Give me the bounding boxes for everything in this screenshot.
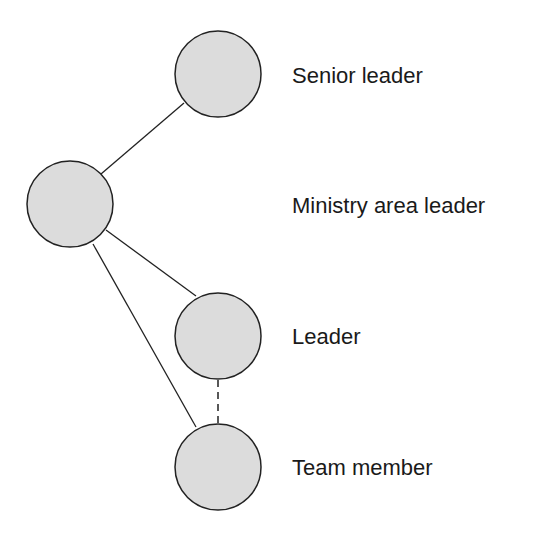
node-ministry-area-leader	[27, 161, 113, 247]
node-leader	[175, 293, 261, 379]
label-senior-leader: Senior leader	[292, 63, 423, 89]
label-team-member: Team member	[292, 455, 433, 481]
edge-ministry-leader	[106, 230, 196, 296]
label-leader: Leader	[292, 324, 361, 350]
node-senior-leader	[175, 31, 261, 117]
node-team-member	[175, 424, 261, 510]
edge-senior-ministry	[101, 103, 184, 174]
label-ministry-area-leader: Ministry area leader	[292, 193, 485, 219]
org-diagram	[0, 0, 534, 540]
